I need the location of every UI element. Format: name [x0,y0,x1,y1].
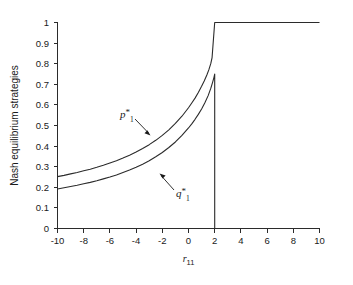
x-tick-marks [58,229,320,233]
y-tick-label: 0 [44,223,49,234]
p1-star-curve [58,23,320,177]
svg-text:p*1: p*1 [119,107,134,124]
series-p1-star [58,23,320,177]
annotation-p1-star: p*1 [119,107,151,136]
x-tick-label: 2 [212,235,217,246]
x-axis-title: r11 [183,253,195,267]
y-tick-label: 1 [44,17,49,28]
y-tick-label: 0.9 [36,38,49,49]
y-tick-label: 0.1 [36,202,49,213]
p1-star-arrow-line [135,119,149,133]
series-q1-star [58,74,215,229]
x-tick-label: -6 [106,235,114,246]
y-axis-title-text: Nash equilibrium strategies [9,65,20,186]
x-tick-label: -8 [79,235,87,246]
y-tick-marks [54,23,58,229]
x-tick-labels: -10 -8 -6 -4 -2 0 2 4 6 8 10 [51,235,325,246]
nash-equilibrium-chart: 0 0.1 0.2 0.3 0.4 0.5 0.6 0.7 0.8 0.9 1 … [0,0,353,285]
y-tick-label: 0.2 [36,182,49,193]
chart-figure: 0 0.1 0.2 0.3 0.4 0.5 0.6 0.7 0.8 0.9 1 … [0,0,353,285]
x-tick-label: 6 [264,235,269,246]
x-tick-label: -10 [51,235,65,246]
p1-star-arrow-head [145,130,151,135]
x-tick-label: 10 [314,235,325,246]
x-tick-label: -4 [132,235,140,246]
x-tick-label: 8 [291,235,296,246]
q1-star-curve [58,74,215,229]
y-tick-label: 0.7 [36,79,49,90]
y-axis-title: Nash equilibrium strategies [9,65,20,186]
y-tick-labels: 0 0.1 0.2 0.3 0.4 0.5 0.6 0.7 0.8 0.9 1 [36,17,49,234]
x-axis-title-subscript: 11 [187,258,195,267]
x-tick-label: 0 [186,235,191,246]
svg-text:q*1: q*1 [176,186,190,203]
p1-star-label-subscript: 1 [130,115,134,124]
y-tick-label: 0.4 [36,141,49,152]
q1-star-label-subscript: 1 [186,194,190,203]
y-tick-label: 0.8 [36,58,49,69]
q1-star-arrow-line [162,176,175,190]
y-tick-label: 0.6 [36,99,49,110]
q1-star-arrow-head [160,174,166,179]
y-tick-label: 0.3 [36,161,49,172]
svg-text:r11: r11 [183,253,195,267]
y-tick-label: 0.5 [36,120,49,131]
x-tick-label: -2 [158,235,166,246]
annotation-q1-star: q*1 [160,174,191,203]
x-tick-label: 4 [238,235,243,246]
